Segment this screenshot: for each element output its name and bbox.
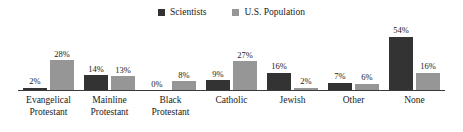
grouped-bar-chart: Scientists U.S. Population 2%28%14%13%0%… bbox=[0, 0, 463, 132]
bar-wrap: 13% bbox=[111, 26, 135, 90]
bar-value-label: 0% bbox=[151, 80, 162, 89]
bar bbox=[50, 60, 74, 90]
bar-value-label: 27% bbox=[237, 51, 253, 60]
category-label: Other bbox=[323, 95, 384, 118]
bar-value-label: 13% bbox=[115, 66, 131, 75]
bar bbox=[172, 81, 196, 90]
category-axis-labels: Evangelical ProtestantMainline Protestan… bbox=[18, 95, 445, 118]
bar bbox=[84, 75, 108, 90]
bar-value-label: 6% bbox=[361, 73, 372, 82]
plot-area: 2%28%14%13%0%8%9%27%16%2%7%6%54%16% bbox=[18, 26, 445, 90]
chart-legend: Scientists U.S. Population bbox=[0, 8, 463, 18]
bar-value-label: 16% bbox=[420, 62, 436, 71]
bar-wrap: 7% bbox=[328, 26, 352, 90]
bar-wrap: 2% bbox=[23, 26, 47, 90]
bar-wrap: 9% bbox=[206, 26, 230, 90]
bar bbox=[206, 80, 230, 90]
legend-swatch-scientists bbox=[158, 9, 165, 16]
bar-wrap: 14% bbox=[84, 26, 108, 90]
bar-value-label: 14% bbox=[88, 65, 104, 74]
bar-group: 7%6% bbox=[323, 26, 384, 90]
category-label: Evangelical Protestant bbox=[18, 95, 79, 118]
bar-group: 2%28% bbox=[18, 26, 79, 90]
bar-wrap: 16% bbox=[416, 26, 440, 90]
bar-group: 14%13% bbox=[79, 26, 140, 90]
legend-item-us-population: U.S. Population bbox=[232, 8, 304, 18]
bar-value-label: 2% bbox=[29, 77, 40, 86]
bar bbox=[111, 76, 135, 90]
bar-value-label: 16% bbox=[271, 62, 287, 71]
legend-label-us-population: U.S. Population bbox=[244, 8, 304, 18]
bar-wrap: 16% bbox=[267, 26, 291, 90]
bar-group: 0%8% bbox=[140, 26, 201, 90]
category-label: None bbox=[384, 95, 445, 118]
x-axis-baseline bbox=[18, 90, 445, 91]
legend-item-scientists: Scientists bbox=[158, 8, 206, 18]
bar bbox=[328, 83, 352, 90]
legend-swatch-us-population bbox=[232, 9, 239, 16]
bar-wrap: 2% bbox=[294, 26, 318, 90]
bar bbox=[389, 37, 413, 91]
bar bbox=[416, 73, 440, 90]
bar-value-label: 9% bbox=[212, 70, 223, 79]
bar-value-label: 54% bbox=[393, 26, 409, 35]
bar-group: 16%2% bbox=[262, 26, 323, 90]
bar-wrap: 6% bbox=[355, 26, 379, 90]
bar-wrap: 0% bbox=[145, 26, 169, 90]
bar-wrap: 54% bbox=[389, 26, 413, 90]
category-label: Black Protestant bbox=[140, 95, 201, 118]
bar-wrap: 8% bbox=[172, 26, 196, 90]
bar-value-label: 8% bbox=[178, 71, 189, 80]
bar bbox=[267, 73, 291, 90]
category-label: Catholic bbox=[201, 95, 262, 118]
bar-wrap: 28% bbox=[50, 26, 74, 90]
bar-value-label: 28% bbox=[54, 50, 70, 59]
legend-label-scientists: Scientists bbox=[170, 8, 206, 18]
category-label: Mainline Protestant bbox=[79, 95, 140, 118]
bar-group: 9%27% bbox=[201, 26, 262, 90]
category-label: Jewish bbox=[262, 95, 323, 118]
bar-groups: 2%28%14%13%0%8%9%27%16%2%7%6%54%16% bbox=[18, 26, 445, 90]
bar-value-label: 2% bbox=[300, 77, 311, 86]
bar bbox=[233, 61, 257, 90]
bar-wrap: 27% bbox=[233, 26, 257, 90]
bar-value-label: 7% bbox=[334, 72, 345, 81]
bar-group: 54%16% bbox=[384, 26, 445, 90]
